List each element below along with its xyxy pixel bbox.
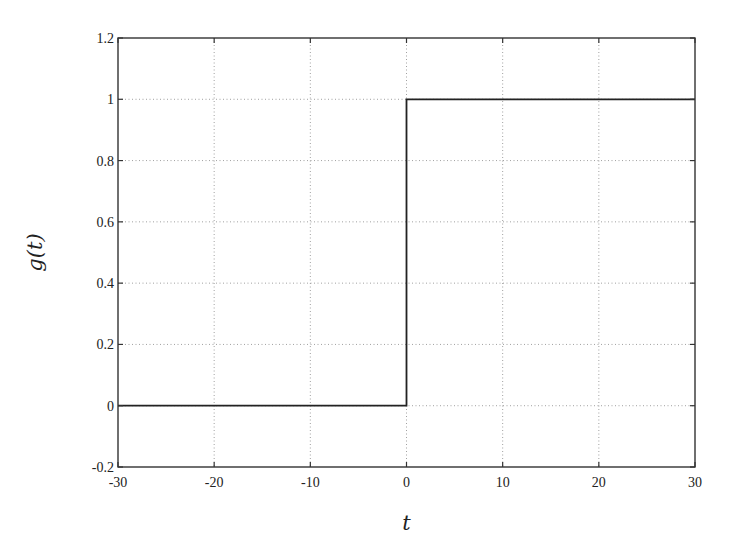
- y-axis-label: g(t): [23, 233, 47, 271]
- series-line-step: [118, 99, 695, 405]
- x-tick-labels: -30-20-100102030: [109, 475, 702, 490]
- y-tick-label: 0: [107, 399, 114, 414]
- x-tick-label: -30: [109, 475, 128, 490]
- y-tick-label: -0.2: [92, 460, 114, 475]
- y-tick-labels: -0.200.20.40.60.811.2: [92, 31, 114, 475]
- y-tick-label: 0.8: [97, 154, 115, 169]
- y-tick-label: 1: [107, 92, 114, 107]
- series-layer: [118, 99, 695, 405]
- x-axis-label: t: [402, 511, 411, 535]
- x-tick-label: 20: [592, 475, 606, 490]
- y-tick-label: 0.4: [97, 276, 115, 291]
- y-tick-label: 0.6: [97, 215, 115, 230]
- x-tick-label: 30: [688, 475, 702, 490]
- x-tick-label: -20: [205, 475, 224, 490]
- x-tick-label: 10: [496, 475, 510, 490]
- y-tick-label: 1.2: [97, 31, 115, 46]
- step-function-chart: -30-20-100102030 -0.200.20.40.60.811.2 t…: [0, 0, 740, 560]
- x-tick-label: 0: [403, 475, 410, 490]
- y-tick-label: 0.2: [97, 337, 115, 352]
- x-tick-label: -10: [301, 475, 320, 490]
